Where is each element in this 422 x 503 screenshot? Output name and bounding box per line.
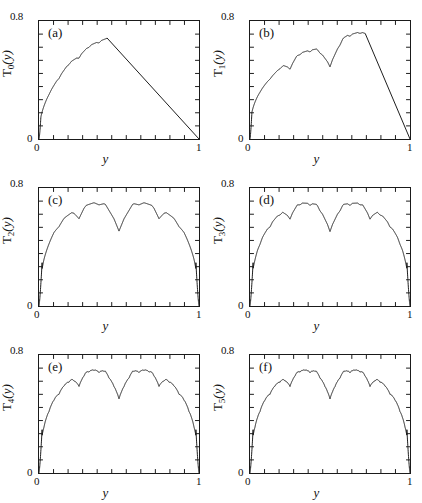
panel-f-tag: (f): [259, 360, 272, 373]
panel-e-y-axis-title: T4(y): [0, 367, 17, 429]
panel-a-y-max-label: 0.8: [10, 11, 23, 22]
panel-a-tag: (a): [48, 26, 62, 39]
panel-d-x-axis-title: y: [211, 319, 422, 332]
panel-e-x-axis-title: y: [0, 486, 211, 499]
panel-b-x-axis-title: y: [211, 152, 422, 165]
panel-c-y-axis-title: T2(y): [0, 200, 17, 262]
panel-d-y-axis-title: T3(y): [211, 200, 228, 262]
panel-d: 0.8 0 T3(y) (d) 0 1 y: [211, 167, 422, 334]
panel-f-y-axis-title: T5(y): [211, 367, 228, 429]
panel-d-tag: (d): [259, 193, 274, 206]
panel-d-y-min-label: 0: [238, 300, 244, 311]
panel-d-y-max-label: 0.8: [221, 178, 234, 189]
panel-c-y-min-label: 0: [27, 300, 33, 311]
panel-e-y-min-label: 0: [27, 467, 33, 478]
panel-e-curve: [39, 355, 199, 473]
panel-c-tag: (c): [48, 193, 62, 206]
panel-f-x-axis-title: y: [211, 486, 422, 499]
panel-b-y-min-label: 0: [238, 133, 244, 144]
figure-panel-grid: 0.8 0 T0(y) (a) 0 1 y 0.8 0 T1(y) (b) 0 …: [0, 0, 422, 503]
panel-b: 0.8 0 T1(y) (b) 0 1 y: [211, 0, 422, 167]
panel-f-plot-box: [249, 354, 411, 474]
panel-e-tag: (e): [48, 360, 62, 373]
panel-c-y-max-label: 0.8: [10, 178, 23, 189]
panel-c-x-axis-title: y: [0, 319, 211, 332]
panel-a-x-axis-title: y: [0, 152, 211, 165]
panel-a-y-axis-title: T0(y): [0, 33, 17, 95]
panel-b-y-axis-title: T1(y): [211, 33, 228, 95]
panel-e: 0.8 0 T4(y) (e) 0 1 y: [0, 334, 211, 503]
panel-e-y-max-label: 0.8: [10, 345, 23, 356]
panel-c-curve: [39, 188, 199, 306]
panel-a: 0.8 0 T0(y) (a) 0 1 y: [0, 0, 211, 167]
panel-a-y-min-label: 0: [27, 133, 33, 144]
panel-f: 0.8 0 T5(y) (f) 0 1 y: [211, 334, 422, 503]
panel-b-tag: (b): [259, 26, 274, 39]
panel-a-curve: [39, 21, 199, 139]
panel-f-y-min-label: 0: [238, 467, 244, 478]
panel-c: 0.8 0 T2(y) (c) 0 1 y: [0, 167, 211, 334]
panel-b-y-max-label: 0.8: [221, 11, 234, 22]
panel-f-curve: [250, 355, 410, 473]
panel-f-y-max-label: 0.8: [221, 345, 234, 356]
